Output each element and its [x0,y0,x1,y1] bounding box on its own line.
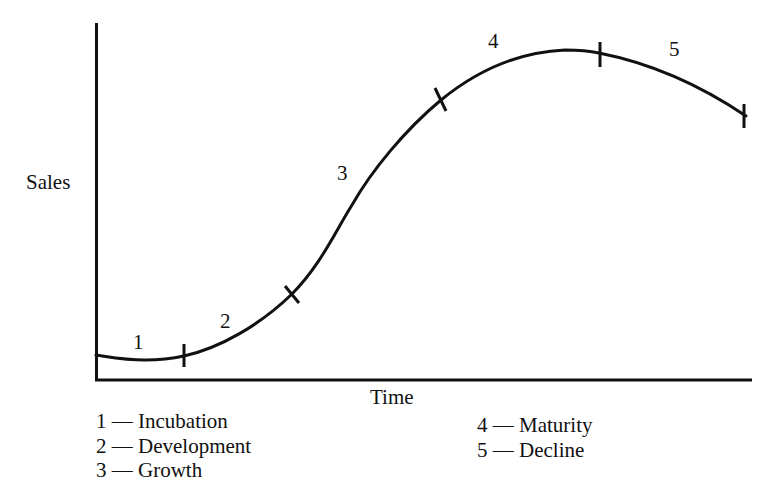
legend-item-decline: 5 — Decline [477,438,593,463]
legend-column-1: 1 — Incubation 2 — Development 3 — Growt… [96,409,251,483]
stage-label-3: 3 [337,163,348,184]
x-axis-label: Time [370,387,414,408]
y-axis-label: Sales [26,172,70,193]
legend-item-growth: 3 — Growth [96,458,251,483]
stage-label-4: 4 [488,31,499,52]
stage-label-5: 5 [669,39,680,60]
stage-label-2: 2 [220,311,231,332]
stage-tick-3-4 [435,88,446,111]
legend-item-incubation: 1 — Incubation [96,409,251,434]
legend-item-development: 2 — Development [96,434,251,459]
stage-label-1: 1 [133,332,144,353]
legend-column-2: 4 — Maturity 5 — Decline [477,413,593,462]
legend-item-maturity: 4 — Maturity [477,413,593,438]
sales-curve [96,50,746,360]
